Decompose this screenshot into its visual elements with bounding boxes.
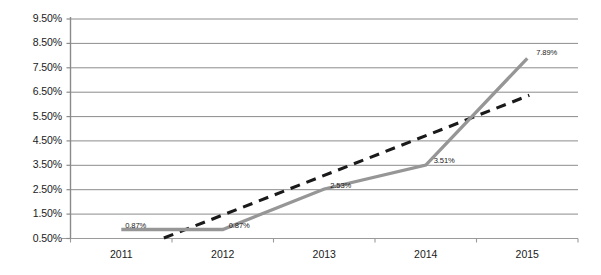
y-axis-tick-label: 0.50% <box>10 232 62 244</box>
y-axis-tick-label: 8.50% <box>10 36 62 48</box>
data-series-line <box>121 58 527 229</box>
data-point-label: 0.87% <box>229 221 250 230</box>
data-point-label: 7.89% <box>536 48 557 57</box>
y-axis-tick-label: 3.50% <box>10 158 62 170</box>
x-axis-tick-label: 2011 <box>71 248 173 260</box>
y-axis-tick-label: 6.50% <box>10 85 62 97</box>
chart-plot-area <box>0 0 601 275</box>
data-point-label: 0.87% <box>125 221 146 230</box>
x-axis-tick-label: 2013 <box>274 248 376 260</box>
x-axis-ticks-group <box>71 239 579 243</box>
data-point-label: 2.53% <box>330 181 351 190</box>
x-axis-tick-label: 2015 <box>477 248 579 260</box>
chart-container: 0.50%1.50%2.50%3.50%4.50%5.50%6.50%7.50%… <box>0 0 601 275</box>
y-axis-tick-label: 1.50% <box>10 207 62 219</box>
y-axis-tick-label: 4.50% <box>10 134 62 146</box>
gridlines-group <box>71 19 579 239</box>
data-point-label: 3.51% <box>434 156 455 165</box>
y-axis-tick-label: 5.50% <box>10 110 62 122</box>
x-axis-tick-label: 2014 <box>375 248 477 260</box>
x-axis-tick-label: 2012 <box>172 248 274 260</box>
y-axis-tick-label: 2.50% <box>10 183 62 195</box>
y-axis-tick-label: 9.50% <box>10 12 62 24</box>
y-axis-tick-label: 7.50% <box>10 61 62 73</box>
